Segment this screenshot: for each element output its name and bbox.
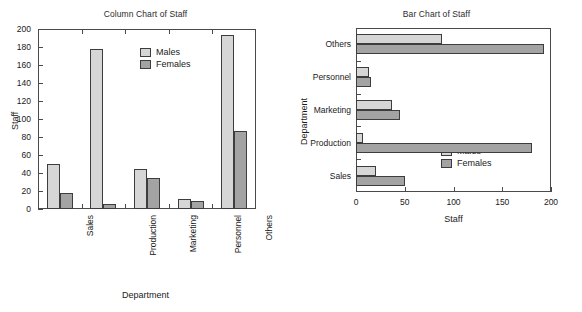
x-tick-mark [125, 204, 126, 209]
bar-sales-males [356, 166, 376, 176]
legend-swatch-males-icon [140, 48, 151, 57]
y-tick-label-production: Production [291, 138, 351, 148]
x-tick-mark [82, 204, 83, 209]
x-tick-label: 50 [391, 197, 419, 207]
y-tick-mark [38, 209, 43, 210]
column-bar-marketing-females [147, 178, 160, 209]
x-tick-label-others: Others [264, 215, 274, 241]
legend-item-females: Females [140, 59, 191, 69]
y-tick-mark [38, 29, 43, 30]
legend-swatch-females-icon [140, 60, 151, 69]
y-tick-label: 80 [0, 132, 31, 142]
y-tick-label: 200 [0, 24, 31, 34]
x-tick-mark [356, 187, 357, 192]
legend-label-females: Females [156, 59, 191, 69]
y-tick-label: 120 [0, 96, 31, 106]
y-tick-label-sales: Sales [291, 171, 351, 181]
y-tick-mark [38, 119, 43, 120]
legend-swatch-females-icon [441, 159, 452, 168]
column-bar-sales-males [47, 164, 60, 209]
x-tick-label: 150 [488, 197, 516, 207]
y-tick-mark [38, 65, 43, 66]
x-tick-mark [212, 204, 213, 209]
column-bar-personnel-females [191, 201, 204, 209]
legend-label-males: Males [156, 47, 180, 57]
y-tick-mark [356, 126, 361, 127]
y-tick-mark [38, 137, 43, 138]
column-bar-others-females [234, 131, 247, 209]
y-tick-mark [38, 191, 43, 192]
bar-marketing-males [356, 100, 392, 110]
y-tick-label: 0 [0, 204, 31, 214]
column-bar-sales-females [60, 193, 73, 209]
y-tick-mark [38, 101, 43, 102]
y-tick-label: 40 [0, 168, 31, 178]
legend-item-females: Females [441, 158, 492, 168]
x-tick-mark [405, 187, 406, 192]
bar-production-females [356, 143, 532, 153]
x-tick-label-sales: Sales [85, 215, 95, 236]
figure-canvas: Column Chart of Staff Staff Department M… [0, 0, 582, 312]
bar-sales-females [356, 176, 405, 186]
bar-chart: Bar Chart of Staff Department Staff Male… [291, 0, 582, 312]
x-tick-mark [551, 187, 552, 192]
column-bar-production-males [90, 49, 103, 209]
y-tick-label: 180 [0, 42, 31, 52]
y-tick-label: 140 [0, 78, 31, 88]
y-tick-label: 60 [0, 150, 31, 160]
y-tick-mark [38, 47, 43, 48]
y-tick-mark [38, 83, 43, 84]
x-tick-label: 200 [537, 197, 565, 207]
y-tick-label-personnel: Personnel [291, 72, 351, 82]
x-tick-label-personnel: Personnel [233, 215, 243, 253]
y-tick-mark [356, 94, 361, 95]
x-tick-mark [82, 29, 83, 34]
x-tick-mark [125, 29, 126, 34]
column-chart: Column Chart of Staff Staff Department M… [0, 0, 291, 312]
legend-label-females: Females [457, 158, 492, 168]
column-bar-personnel-males [178, 199, 191, 209]
x-tick-mark [169, 29, 170, 34]
bar-marketing-females [356, 110, 400, 120]
y-tick-label-marketing: Marketing [291, 105, 351, 115]
bar-others-females [356, 44, 544, 54]
x-tick-mark [502, 187, 503, 192]
column-bar-others-males [221, 35, 234, 209]
x-tick-label-production: Production [148, 215, 158, 256]
x-tick-mark [454, 187, 455, 192]
y-tick-label: 160 [0, 60, 31, 70]
x-tick-label: 0 [342, 197, 370, 207]
column-chart-title: Column Chart of Staff [0, 9, 291, 19]
x-tick-label: 100 [440, 197, 468, 207]
bar-chart-title: Bar Chart of Staff [291, 9, 582, 19]
column-chart-x-axis-label: Department [0, 290, 291, 300]
y-tick-label: 20 [0, 186, 31, 196]
y-tick-mark [38, 173, 43, 174]
y-tick-label: 100 [0, 114, 31, 124]
legend-item-males: Males [140, 47, 191, 57]
column-bar-marketing-males [134, 169, 147, 210]
x-tick-mark [212, 29, 213, 34]
bar-personnel-males [356, 67, 369, 77]
bar-others-males [356, 34, 442, 44]
y-tick-mark [356, 159, 361, 160]
y-tick-label-others: Others [291, 39, 351, 49]
x-tick-mark [169, 204, 170, 209]
y-tick-mark [356, 61, 361, 62]
column-chart-legend: Males Females [140, 47, 191, 71]
x-tick-label-marketing: Marketing [188, 215, 198, 252]
column-bar-production-females [103, 204, 116, 209]
bar-chart-x-axis-label: Staff [356, 214, 551, 224]
bar-personnel-females [356, 77, 371, 87]
y-tick-mark [38, 155, 43, 156]
bar-production-males [356, 133, 363, 143]
